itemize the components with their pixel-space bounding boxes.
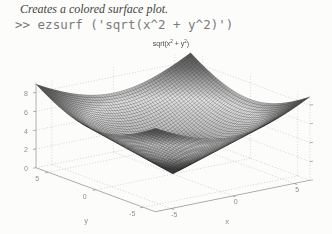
x-axis-label: x bbox=[225, 217, 229, 226]
documentation-page: Creates a colored surface plot. >> ezsur… bbox=[0, 0, 332, 234]
caption-text: Creates a colored surface plot. bbox=[20, 2, 320, 16]
y-tick-label: 0 bbox=[83, 192, 87, 199]
z-tick-label: 4 bbox=[24, 127, 28, 134]
matlab-command-line: >> ezsurf ('sqrt(x^2 + y^2)') bbox=[15, 17, 330, 32]
y-tick-label: -5 bbox=[129, 210, 135, 217]
z-tick-label: 0 bbox=[24, 165, 28, 172]
plot-title-post: ) bbox=[187, 40, 189, 47]
surface-plot-canvas bbox=[0, 36, 332, 234]
x-tick-label: -5 bbox=[171, 210, 177, 217]
plot-title: sqrt(x2 + y2) bbox=[153, 39, 189, 47]
z-tick-label: 2 bbox=[24, 146, 28, 153]
plot-title-pre: sqrt(x bbox=[153, 40, 171, 47]
plot-title-mid: + y bbox=[173, 40, 184, 47]
x-tick-label: 0 bbox=[234, 198, 238, 205]
surface-plot: sqrt(x2 + y2) 0246850-5-505yx bbox=[0, 36, 332, 234]
z-tick-label: 8 bbox=[24, 90, 28, 97]
y-axis-label: y bbox=[84, 216, 88, 225]
z-tick-label: 6 bbox=[24, 108, 28, 115]
x-tick-label: 5 bbox=[295, 185, 299, 192]
y-tick-label: 5 bbox=[35, 175, 39, 182]
